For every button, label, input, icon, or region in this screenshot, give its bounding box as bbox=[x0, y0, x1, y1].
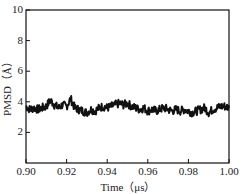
y-tick-label: 8 bbox=[18, 34, 24, 46]
pmsd-line-chart bbox=[0, 0, 243, 194]
plot-frame bbox=[26, 10, 229, 163]
x-tick-label: 0.96 bbox=[138, 165, 157, 177]
x-tick-label: 1.00 bbox=[219, 165, 238, 177]
y-tick-label: 6 bbox=[18, 64, 24, 76]
x-tick-label: 0.92 bbox=[57, 165, 76, 177]
y-tick-label: 10 bbox=[12, 3, 23, 15]
y-axis-label: PMSD（Å） bbox=[0, 56, 14, 116]
x-axis-ticks bbox=[26, 159, 229, 163]
y-tick-label: 4 bbox=[18, 95, 24, 107]
x-tick-label: 0.98 bbox=[179, 165, 198, 177]
x-tick-label: 0.90 bbox=[16, 165, 35, 177]
pmsd-series-line bbox=[26, 96, 229, 117]
x-tick-label: 0.94 bbox=[98, 165, 117, 177]
x-axis-label: Time（μs） bbox=[100, 178, 155, 194]
y-tick-label: 2 bbox=[18, 125, 24, 137]
